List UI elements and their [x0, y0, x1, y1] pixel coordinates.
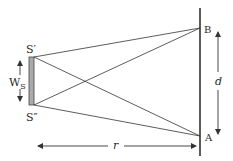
source-width-label: WS [9, 76, 26, 91]
point-a-label: A [204, 132, 213, 143]
point-b-label: B [204, 24, 211, 35]
ray-stop-a [34, 57, 200, 136]
distance-label: r [113, 139, 119, 152]
ray-stop-b [34, 28, 200, 57]
diagram-canvas: WS S′ S″ B A d r [0, 0, 233, 161]
ray-sbottom-b [34, 28, 200, 105]
source-top-label: S′ [26, 43, 37, 56]
separation-label: d [215, 75, 222, 88]
ray-sbottom-a [34, 105, 200, 136]
rays [34, 28, 200, 136]
source-bottom-label: S″ [26, 111, 38, 124]
source-slit [29, 57, 34, 105]
